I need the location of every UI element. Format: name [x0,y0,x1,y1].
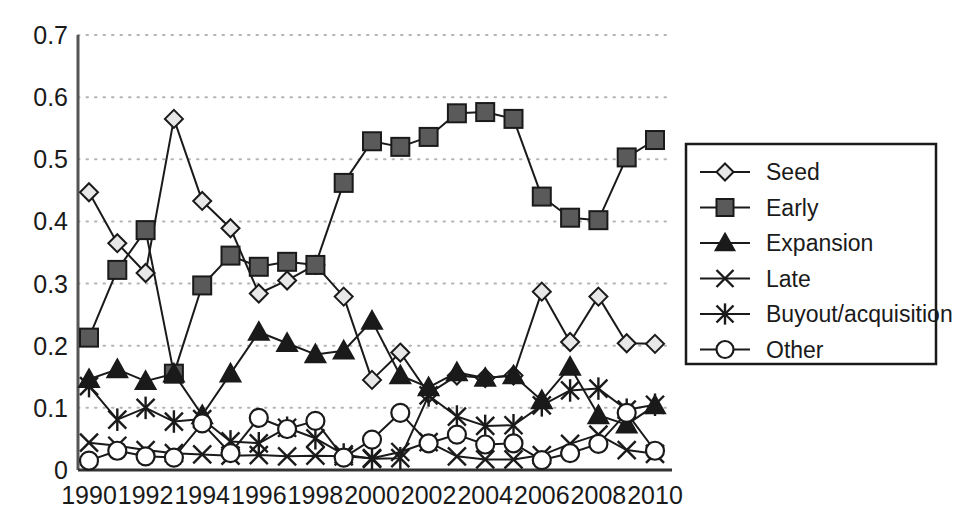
marker-circle [250,409,268,427]
x-tick-label: 2006 [514,481,570,509]
marker-circle [646,442,664,460]
x-tick-label: 2010 [627,481,683,509]
x-tick-label: 2002 [401,481,457,509]
marker-square [618,148,636,166]
legend-label: Seed [766,159,820,185]
marker-square [108,261,126,279]
y-tick-label: 0.5 [33,145,68,173]
legend-label: Late [766,266,811,292]
marker-circle [222,444,240,462]
y-tick-label: 0.2 [33,332,68,360]
marker-circle [108,442,126,460]
marker-square [448,104,466,122]
legend-label: Buyout/acquisition [766,301,953,327]
marker-circle [391,404,409,422]
x-axis-tick-labels: 1990199219941996199820002002200420062008… [61,481,683,509]
marker-circle [420,434,438,452]
marker-circle [335,449,353,467]
x-tick-label: 1994 [174,481,230,509]
y-tick-label: 0.7 [33,21,68,49]
marker-circle [561,444,579,462]
marker-square [391,138,409,156]
marker-square [476,103,494,121]
x-tick-label: 2004 [457,481,513,509]
marker-circle [278,420,296,438]
legend-label: Other [766,337,824,363]
marker-circle [165,449,183,467]
y-tick-label: 0 [54,456,68,484]
marker-square [278,253,296,271]
x-tick-label: 2008 [571,481,627,509]
marker-square [306,256,324,274]
y-tick-label: 0.6 [33,83,68,111]
x-tick-label: 1992 [118,481,174,509]
marker-square [222,247,240,265]
y-tick-label: 0.1 [33,394,68,422]
marker-circle [448,426,466,444]
marker-circle [306,412,324,430]
marker-circle [476,436,494,454]
marker-square [137,221,155,239]
marker-square [533,188,551,206]
marker-circle [193,414,211,432]
marker-circle [533,451,551,469]
marker-square [193,276,211,294]
marker-square [335,174,353,192]
line-chart: 00.10.20.30.40.50.60.7 19901992199419961… [0,0,964,526]
legend-label: Expansion [766,230,873,256]
marker-square [80,329,98,347]
chart-container: 00.10.20.30.40.50.60.7 19901992199419961… [0,0,964,526]
marker-circle [137,447,155,465]
marker-square [717,199,734,216]
marker-circle [618,404,636,422]
x-tick-label: 1996 [231,481,287,509]
marker-square [589,211,607,229]
marker-circle [717,341,734,358]
marker-square [420,128,438,146]
x-tick-label: 2000 [344,481,400,509]
marker-square [646,131,664,149]
legend-label: Early [766,195,819,221]
x-tick-label: 1998 [288,481,344,509]
marker-square [363,132,381,150]
marker-circle [363,431,381,449]
marker-square [561,209,579,227]
marker-square [505,110,523,128]
chart-legend: SeedEarlyExpansionLateBuyout/acquisition… [686,144,953,364]
x-tick-label: 1990 [61,481,117,509]
marker-circle [505,434,523,452]
y-tick-label: 0.4 [33,207,68,235]
marker-circle [80,452,98,470]
marker-circle [589,435,607,453]
y-tick-label: 0.3 [33,270,68,298]
marker-square [250,258,268,276]
